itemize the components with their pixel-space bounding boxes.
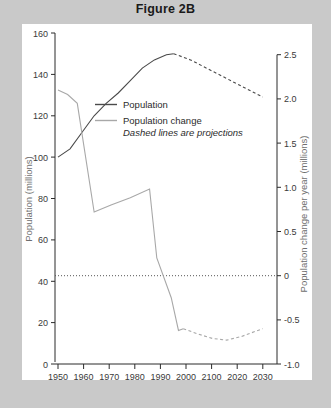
- x-axis-tick-label: 1960: [74, 372, 94, 380]
- x-axis-tick-label: 1970: [99, 372, 119, 380]
- x-axis-tick-label: 1980: [125, 372, 145, 380]
- y-axis-left-tick-label: 40: [38, 277, 48, 287]
- y-axis-right-title: Population change per year (millions): [298, 136, 309, 293]
- x-axis-tick-label: 2000: [176, 372, 196, 380]
- y-axis-left-tick-label: 100: [33, 153, 48, 163]
- population-projection-chart: 160 140 120 100 80 60 40 20 0 Population…: [22, 24, 312, 380]
- x-axis-tick-label: 1950: [48, 372, 68, 380]
- y-axis-left-tick-label: 140: [33, 70, 48, 80]
- y-axis-right-tick-label: 2.5: [284, 50, 297, 60]
- y-axis-right-tick-label: 1.0: [284, 183, 297, 193]
- series-group: [58, 54, 263, 340]
- y-axis-right-tick-label: 2.0: [284, 94, 297, 104]
- y-axis-left-tick-label: 160: [33, 29, 48, 39]
- y-axis-left-tick-label: 60: [38, 235, 48, 245]
- chart-card: 160 140 120 100 80 60 40 20 0 Population…: [22, 24, 312, 380]
- y-axis-right-tick-label: 1.5: [284, 139, 297, 149]
- x-axis-tick-label: 2020: [227, 372, 247, 380]
- population-projected-line: [174, 54, 263, 97]
- legend-label-population-change: Population change: [123, 115, 202, 126]
- legend-note-projections: Dashed lines are projections: [123, 127, 243, 138]
- y-axis-right: 2.5 2.0 1.5 1.0 0.5 0 -0.5 -1.0 Populati…: [277, 50, 309, 369]
- x-axis-tick-label: 2100: [202, 372, 222, 380]
- y-axis-left-title: Population (millions): [23, 156, 34, 242]
- x-axis-tick-label: 1990: [150, 372, 170, 380]
- y-axis-left-tick-label: 0: [43, 360, 48, 370]
- y-axis-left-tick-label: 20: [38, 318, 48, 328]
- chart-legend: Population Population change Dashed line…: [95, 99, 243, 138]
- population-change-projected-line: [183, 329, 263, 340]
- y-axis-left: 160 140 120 100 80 60 40 20 0 Population…: [23, 29, 55, 370]
- y-axis-left-tick-label: 80: [38, 194, 48, 204]
- x-axis: 1950 1960 1970 1980 1990 2000 2100 2020 …: [48, 364, 277, 380]
- y-axis-left-tick-label: 120: [33, 111, 48, 121]
- y-axis-right-tick-label: 0.5: [284, 227, 297, 237]
- y-axis-right-tick-label: 0: [284, 271, 289, 281]
- y-axis-right-tick-label: -1.0: [284, 360, 300, 370]
- x-axis-tick-label: 2030: [253, 372, 273, 380]
- figure-container: Figure 2B 160 140 120 100 80 60: [0, 0, 331, 408]
- legend-label-population: Population: [123, 99, 168, 110]
- figure-title: Figure 2B: [0, 2, 331, 16]
- y-axis-right-tick-label: -0.5: [284, 315, 300, 325]
